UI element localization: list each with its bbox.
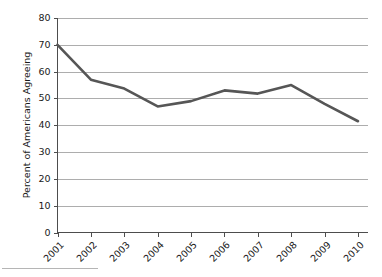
y-tick-label: 50: [38, 92, 50, 103]
y-tick-label: 0: [44, 227, 50, 238]
y-axis-title: Percent of Americans Agreeing: [21, 52, 32, 199]
y-tick-label: 20: [38, 173, 50, 184]
y-tick-label: 60: [38, 66, 50, 77]
y-tick-label: 70: [38, 39, 50, 50]
y-tick-labels-group: 01020304050607080: [38, 12, 50, 238]
y-tick-label: 30: [38, 146, 50, 157]
y-tick-label: 40: [38, 119, 50, 130]
chart-page: 01020304050607080 2001200220032004200520…: [0, 0, 382, 277]
y-tick-label: 80: [38, 12, 50, 23]
y-tick-label: 10: [38, 200, 50, 211]
line-chart: 01020304050607080 2001200220032004200520…: [0, 0, 382, 277]
